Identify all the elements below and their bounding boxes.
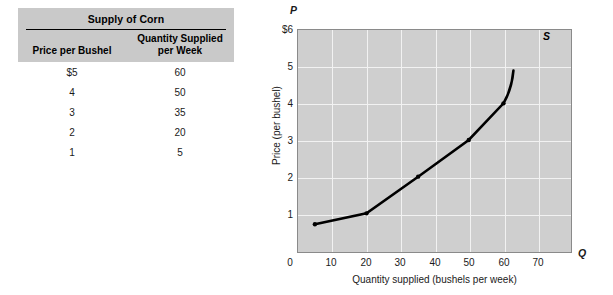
supply-of-corn-table-panel: Supply of Corn Price per Bushel Quantity… [18,8,234,162]
x-tick-label: 0 [275,258,305,268]
x-axis-title: Quantity supplied (bushels per week) [297,274,572,285]
cell-quantity: 35 [126,102,234,122]
cell-price: 2 [18,122,126,142]
table-row: 1 5 [18,142,234,162]
x-tick-label: 10 [316,258,346,268]
cell-quantity: 50 [126,82,234,102]
table-title-row: Supply of Corn [18,8,234,29]
y-tick-label: 1 [269,210,293,220]
data-point-marker [313,222,317,226]
column-header-price: Price per Bushel [18,30,126,62]
column-header-quantity-line2: per Week [126,45,234,57]
data-point-marker [467,138,471,142]
x-tick-label: 40 [420,258,450,268]
data-point-marker [364,211,368,215]
curve-label-supply: S [543,30,550,42]
cell-price: 1 [18,142,126,162]
table-row: $5 60 [18,62,234,82]
x-axis-symbol: Q [578,247,586,259]
table-header-row: Price per Bushel Quantity Supplied per W… [18,30,234,62]
cell-quantity: 5 [126,142,234,162]
cell-price: $5 [18,62,126,82]
supply-curve-chart: P Q $6 5 4 3 2 1 Price (per bushel) [250,0,613,295]
y-tick-label: $6 [269,25,293,35]
supply-curve-svg [298,30,571,252]
cell-quantity: 60 [126,62,234,82]
curve-path [315,71,514,225]
cell-price: 3 [18,102,126,122]
table-row: 4 50 [18,82,234,102]
column-header-quantity: Quantity Supplied per Week [126,30,234,62]
table-title: Supply of Corn [18,8,234,29]
x-tick-label: 20 [351,258,381,268]
table-row: 3 35 [18,102,234,122]
column-header-quantity-line1: Quantity Supplied [126,33,234,45]
data-point-marker [416,174,420,178]
x-tick-label: 60 [489,258,519,268]
cell-price: 4 [18,82,126,102]
x-tick-label: 30 [385,258,415,268]
y-axis-title: Price (per bushel) [271,61,282,191]
plot-area [297,29,572,253]
supply-of-corn-table: Supply of Corn Price per Bushel Quantity… [18,8,234,162]
x-tick-label: 70 [523,258,553,268]
x-tick-label: 50 [454,258,484,268]
table-row: 2 20 [18,122,234,142]
data-point-marker [501,101,505,105]
cell-quantity: 20 [126,122,234,142]
